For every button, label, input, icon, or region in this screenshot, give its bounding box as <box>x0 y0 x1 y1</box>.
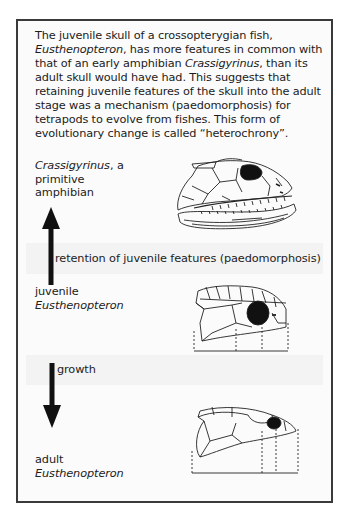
crassigyrinus-label: Crassigyrinus, a primitive amphibian <box>35 159 145 200</box>
growth-label: growth <box>57 363 96 377</box>
crassigyrinus-line2: primitive <box>35 173 84 186</box>
adult-skull-illustration <box>192 401 302 481</box>
crassigyrinus-line3: amphibian <box>35 186 94 199</box>
adult-stage: adult <box>35 453 63 466</box>
juvenile-name: Eusthenopteron <box>35 299 124 312</box>
intro-seg-0: The juvenile skull of a crossopterygian … <box>35 29 273 42</box>
intro-seg-3: Crassigyrinus <box>185 57 259 70</box>
adult-label: adult Eusthenopteron <box>35 453 124 480</box>
intro-paragraph: The juvenile skull of a crossopterygian … <box>35 29 325 141</box>
juvenile-label: juvenile Eusthenopteron <box>35 285 124 312</box>
juvenile-stage: juvenile <box>35 285 79 298</box>
up-arrow-icon <box>41 207 61 287</box>
figure-frame: The juvenile skull of a crossopterygian … <box>16 19 333 503</box>
paedomorphosis-label: retention of juvenile features (paedomor… <box>55 252 321 266</box>
adult-name: Eusthenopteron <box>35 467 124 480</box>
intro-seg-1: Eusthenopteron <box>35 43 123 56</box>
crassigyrinus-suffix: , a <box>110 159 124 172</box>
juvenile-skull-illustration <box>192 283 292 355</box>
crassigyrinus-name: Crassigyrinus <box>35 159 110 172</box>
crassigyrinus-skull-illustration <box>172 156 302 236</box>
